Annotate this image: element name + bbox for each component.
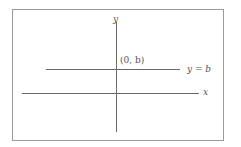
x-axis-line <box>22 93 199 94</box>
y-axis-line <box>116 22 117 132</box>
x-axis-label: x <box>203 88 208 97</box>
line-equation-label: y = b <box>187 65 211 74</box>
horizontal-line-y-equals-b <box>46 69 180 70</box>
point-label: (0, b) <box>120 56 144 65</box>
figure-frame <box>12 9 224 141</box>
y-axis-label: y <box>113 15 118 24</box>
